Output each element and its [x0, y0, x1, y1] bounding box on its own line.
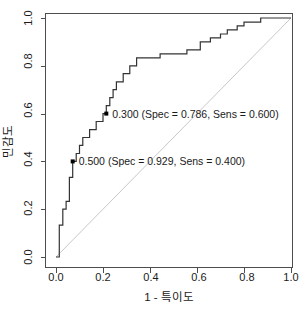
- x-axis-title: 1 - 특이도: [144, 291, 194, 303]
- x-tick-label-2: 0.4: [143, 271, 158, 283]
- x-tick-label-5: 1.0: [283, 271, 298, 283]
- y-tick-label-1: 0.2: [22, 200, 34, 215]
- threshold-label-0300: 0.300 (Spec = 0.786, Sens = 0.600): [112, 108, 278, 120]
- y-tick-label-4: 0.8: [22, 53, 34, 68]
- threshold-marker-0500: [71, 159, 75, 163]
- roc-curve-figure: 0.0 0.2 0.4 0.6 0.8 1.0 0.0 0.2 0.4 0.6 …: [0, 0, 306, 313]
- x-tick-label-3: 0.6: [191, 271, 206, 283]
- y-tick-label-2: 0.4: [22, 151, 34, 166]
- y-axis-title: 민감도: [2, 125, 14, 158]
- x-tick-label-1: 0.2: [95, 271, 110, 283]
- roc-plot-svg: 0.0 0.2 0.4 0.6 0.8 1.0 0.0 0.2 0.4 0.6 …: [0, 0, 306, 313]
- y-tick-label-0: 0.0: [22, 249, 34, 264]
- y-tick-label-5: 1.0: [22, 10, 34, 25]
- x-tick-label-4: 0.8: [239, 271, 254, 283]
- threshold-label-0500: 0.500 (Spec = 0.929, Sens = 0.400): [79, 155, 245, 167]
- threshold-marker-0300: [104, 112, 108, 116]
- x-tick-label-0: 0.0: [48, 271, 63, 283]
- y-tick-label-3: 0.6: [22, 102, 34, 117]
